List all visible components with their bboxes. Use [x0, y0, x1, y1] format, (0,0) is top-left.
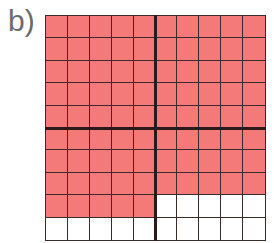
unshaded-cell	[199, 195, 221, 217]
unshaded-cell	[155, 218, 177, 240]
shaded-cell	[199, 106, 221, 128]
unshaded-cell	[68, 218, 90, 240]
shaded-cell	[177, 128, 199, 150]
shaded-cell	[155, 83, 177, 105]
shaded-cell	[112, 83, 134, 105]
shaded-cell	[46, 106, 68, 128]
unshaded-cell	[243, 195, 265, 217]
shaded-cell	[199, 150, 221, 172]
shaded-cell	[134, 61, 156, 83]
shaded-cell	[134, 173, 156, 195]
shaded-cell	[199, 173, 221, 195]
shaded-cell	[199, 61, 221, 83]
shaded-cell	[155, 16, 177, 38]
unshaded-cell	[177, 195, 199, 217]
unshaded-cell	[221, 218, 243, 240]
unshaded-cell	[243, 218, 265, 240]
shaded-cell	[90, 38, 112, 60]
shaded-cell	[46, 16, 68, 38]
center-horizontal-divider	[45, 127, 266, 130]
shaded-cell	[199, 16, 221, 38]
shaded-cell	[221, 61, 243, 83]
shaded-cell	[155, 61, 177, 83]
unshaded-cell	[46, 218, 68, 240]
shaded-cell	[155, 106, 177, 128]
shaded-cell	[221, 173, 243, 195]
shaded-cell	[243, 61, 265, 83]
shaded-cell	[177, 173, 199, 195]
shaded-cell	[177, 150, 199, 172]
unshaded-cell	[90, 218, 112, 240]
shaded-cell	[68, 195, 90, 217]
shaded-cell	[155, 128, 177, 150]
shaded-cell	[112, 16, 134, 38]
shaded-cell	[112, 61, 134, 83]
shaded-cell	[221, 83, 243, 105]
shaded-cell	[221, 150, 243, 172]
shaded-cell	[134, 16, 156, 38]
shaded-cell	[243, 83, 265, 105]
shaded-cell	[112, 38, 134, 60]
unshaded-cell	[177, 218, 199, 240]
shaded-cell	[112, 106, 134, 128]
shaded-cell	[134, 128, 156, 150]
shaded-cell	[90, 16, 112, 38]
shaded-cell	[243, 16, 265, 38]
shaded-cell	[90, 83, 112, 105]
shaded-cell	[134, 83, 156, 105]
shaded-cell	[177, 83, 199, 105]
shaded-cell	[68, 173, 90, 195]
shaded-cell	[243, 38, 265, 60]
unshaded-cell	[134, 218, 156, 240]
shaded-cell	[90, 173, 112, 195]
shaded-cell	[221, 16, 243, 38]
unshaded-cell	[199, 218, 221, 240]
shaded-cell	[177, 61, 199, 83]
shaded-cell	[112, 128, 134, 150]
part-label: b)	[8, 6, 35, 36]
shaded-cell	[134, 195, 156, 217]
shaded-cell	[243, 128, 265, 150]
shaded-cell	[243, 150, 265, 172]
unshaded-cell	[112, 218, 134, 240]
shaded-cell	[199, 83, 221, 105]
shaded-cell	[221, 106, 243, 128]
shaded-cell	[46, 150, 68, 172]
shaded-cell	[90, 150, 112, 172]
shaded-cell	[68, 16, 90, 38]
shaded-cell	[177, 106, 199, 128]
shaded-cell	[112, 195, 134, 217]
shaded-cell	[46, 173, 68, 195]
shaded-cell	[46, 195, 68, 217]
shaded-cell	[243, 173, 265, 195]
shaded-cell	[221, 128, 243, 150]
shaded-cell	[112, 173, 134, 195]
shaded-cell	[177, 16, 199, 38]
unshaded-cell	[155, 195, 177, 217]
shaded-cell	[46, 61, 68, 83]
shaded-cell	[68, 38, 90, 60]
shaded-cell	[155, 150, 177, 172]
shaded-cell	[68, 150, 90, 172]
shaded-cell	[134, 150, 156, 172]
shaded-cell	[90, 195, 112, 217]
shaded-cell	[68, 128, 90, 150]
shaded-cell	[221, 38, 243, 60]
shaded-cell	[177, 38, 199, 60]
shaded-cell	[112, 150, 134, 172]
shaded-cell	[155, 173, 177, 195]
shaded-cell	[199, 128, 221, 150]
shaded-cell	[90, 106, 112, 128]
shaded-cell	[90, 128, 112, 150]
shaded-cell	[46, 83, 68, 105]
shaded-cell	[46, 38, 68, 60]
shaded-cell	[90, 61, 112, 83]
shaded-cell	[134, 106, 156, 128]
shaded-cell	[134, 38, 156, 60]
shaded-cell	[68, 83, 90, 105]
shaded-cell	[68, 61, 90, 83]
unshaded-cell	[221, 195, 243, 217]
shaded-cell	[46, 128, 68, 150]
shaded-cell	[243, 106, 265, 128]
shaded-cell	[155, 38, 177, 60]
